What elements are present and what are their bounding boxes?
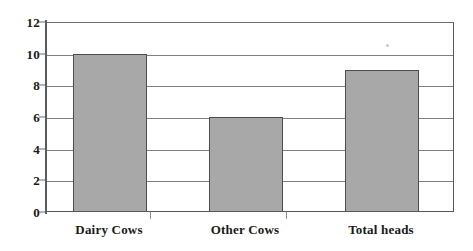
bar-chart: 12 10 8 6 4 2 0 Dairy Cows Other Cows To… xyxy=(0,0,473,251)
y-tick-label-6: 6 xyxy=(14,111,40,124)
bar-total-heads xyxy=(345,70,419,211)
y-tick-label-2: 2 xyxy=(14,174,40,187)
x-tick-label-total-heads: Total heads xyxy=(348,222,414,238)
x-tick-label-other-cows: Other Cows xyxy=(211,222,280,238)
y-tick-label-12: 12 xyxy=(14,16,40,29)
bar-dairy-cows xyxy=(73,54,147,211)
y-axis-tick-labels: 12 10 8 6 4 2 0 xyxy=(14,0,40,251)
y-tick-label-10: 10 xyxy=(14,47,40,60)
y-tick-label-8: 8 xyxy=(14,79,40,92)
x-separator-tick-1 xyxy=(150,212,151,219)
bar-other-cows xyxy=(209,117,283,211)
x-separator-tick-2 xyxy=(286,212,287,219)
scan-artifact-speck xyxy=(386,44,389,47)
y-tick-label-4: 4 xyxy=(14,142,40,155)
x-tick-label-dairy-cows: Dairy Cows xyxy=(75,222,142,238)
y-tick-label-0: 0 xyxy=(14,206,40,219)
plot-area xyxy=(46,22,454,212)
